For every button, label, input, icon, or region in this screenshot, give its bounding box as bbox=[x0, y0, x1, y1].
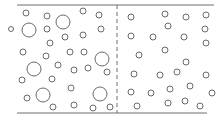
particle bbox=[209, 90, 215, 96]
particle bbox=[49, 76, 55, 82]
particle bbox=[197, 103, 203, 109]
particle bbox=[183, 59, 189, 65]
particle bbox=[134, 103, 140, 109]
particle bbox=[107, 104, 113, 110]
particle bbox=[27, 62, 41, 76]
particle bbox=[162, 11, 168, 17]
particle bbox=[157, 72, 163, 78]
particle bbox=[128, 33, 134, 39]
particle bbox=[62, 34, 68, 40]
particle bbox=[43, 53, 49, 59]
particle bbox=[36, 88, 50, 102]
particle bbox=[24, 95, 30, 101]
particle bbox=[136, 52, 142, 58]
particle-diagram bbox=[0, 0, 222, 118]
particle bbox=[47, 40, 53, 46]
particle bbox=[93, 87, 107, 101]
particle bbox=[150, 34, 156, 40]
particle bbox=[44, 26, 50, 32]
particle bbox=[56, 15, 70, 29]
particle bbox=[165, 23, 171, 29]
particle bbox=[80, 8, 86, 14]
particle bbox=[165, 100, 171, 106]
particle bbox=[181, 34, 187, 40]
particle bbox=[182, 98, 188, 104]
particle bbox=[55, 62, 61, 68]
particle bbox=[162, 47, 168, 53]
particle bbox=[203, 12, 209, 18]
particle bbox=[104, 69, 110, 75]
particle bbox=[23, 10, 29, 16]
particle bbox=[90, 105, 96, 111]
particle bbox=[9, 27, 14, 32]
particle bbox=[148, 90, 154, 96]
particle bbox=[98, 26, 104, 32]
particle bbox=[44, 13, 50, 19]
particle bbox=[80, 32, 86, 38]
particle bbox=[71, 67, 77, 73]
particle bbox=[131, 71, 137, 77]
left-particles bbox=[9, 8, 114, 111]
particle bbox=[96, 12, 102, 18]
particle bbox=[128, 89, 134, 95]
particle bbox=[128, 14, 134, 20]
particle bbox=[95, 52, 109, 66]
particle bbox=[187, 83, 193, 89]
particle bbox=[85, 65, 91, 71]
particle bbox=[50, 104, 56, 110]
particle bbox=[68, 85, 74, 91]
particle bbox=[22, 23, 36, 37]
particle bbox=[203, 72, 209, 78]
particle bbox=[174, 69, 180, 75]
particle bbox=[67, 49, 73, 55]
particle bbox=[183, 14, 189, 20]
particle bbox=[19, 77, 25, 83]
particle bbox=[202, 26, 208, 32]
particle bbox=[203, 40, 209, 46]
particle bbox=[71, 102, 77, 108]
particle bbox=[20, 49, 26, 55]
particle bbox=[81, 49, 87, 55]
particle bbox=[167, 86, 173, 92]
right-particles bbox=[128, 11, 215, 109]
